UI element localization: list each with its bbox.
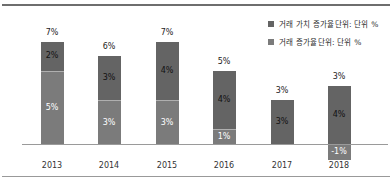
x-axis-label: 2014 [99,162,119,170]
bar-segment-value-growth: 4% [156,42,179,100]
bar-segment-value-growth: 3% [98,56,121,100]
bar-total-label: 7% [161,29,174,37]
bottom-divider [2,176,390,177]
bar-segment-volume-growth: 5% [41,71,64,144]
bar-total-label: 6% [103,43,116,51]
bar-segment-value-growth: 3% [271,100,294,144]
x-axis-label: 2016 [214,162,234,170]
bar-segment-volume-growth: 3% [156,100,179,144]
bar-segment-value-growth: 2% [41,42,64,71]
x-axis-label: 2013 [42,162,62,170]
chart-plot: 2%5%7%20133%3%6%20144%3%7%20154%1%5%2016… [0,0,392,190]
x-axis-label: 2018 [329,162,349,170]
bar-segment-volume-growth: 1% [213,129,236,144]
x-axis-label: 2017 [272,162,292,170]
chart-frame: 거래 가치 증가율단위: 단위 % 거래 증가율단위: 단위 % 2%5%7%2… [0,0,392,190]
x-axis-label: 2015 [157,162,177,170]
bar-total-label: 3% [333,73,346,81]
bar-segment-value-growth: 4% [328,86,351,144]
bar-segment-value-growth: 4% [213,71,236,129]
bar-segment-volume-growth: 3% [98,100,121,144]
bar-total-label: 3% [276,87,289,95]
bar-total-label: 5% [218,58,231,66]
bar-segment-volume-growth: -1% [328,145,351,160]
bar-total-label: 7% [46,29,59,37]
